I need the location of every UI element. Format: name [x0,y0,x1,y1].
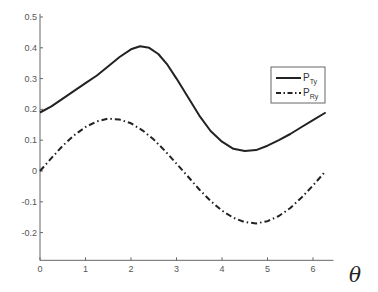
line-chart: 0.50.40.30.20.10-0.1-0.2 0123456 PTyPRy … [0,0,378,292]
x-tick-label: 3 [174,264,179,274]
legend: PTyPRy [271,67,325,103]
y-tick-label: 0.2 [24,104,37,114]
x-tick-label: 1 [83,264,88,274]
y-tick-label: -0.2 [21,228,37,238]
x-tick-label: 4 [219,264,224,274]
axes: 0.50.40.30.20.10-0.1-0.2 0123456 [21,12,333,274]
x-tick-label: 6 [310,264,315,274]
y-tick-label: 0.3 [24,74,37,84]
y-tick-label: 0 [32,166,37,176]
x-tick-label: 2 [128,264,133,274]
y-tick-label: 0.1 [24,135,37,145]
x-tick-label: 5 [265,264,270,274]
x-tick-label: 0 [37,264,42,274]
y-tick-label: -0.1 [21,197,37,207]
y-tick-label: 0.5 [24,12,37,22]
series-line-p-ry [40,119,326,224]
y-tick-label: 0.4 [24,43,37,53]
x-axis-label: θ [349,263,361,287]
